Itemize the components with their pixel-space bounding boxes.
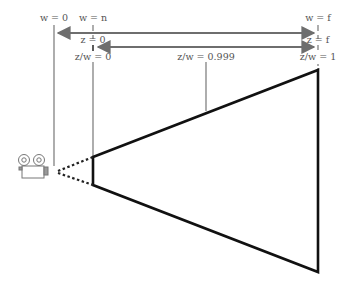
label-w-n: w = n <box>79 12 107 23</box>
label-zw-one: z/w = 1 <box>300 51 336 62</box>
camera-ray-top <box>58 157 93 171</box>
frustum-diagram: w = 0 w = n w = f z = 0 z = f z/w = 0 z/… <box>0 0 350 286</box>
movie-camera-icon <box>19 155 49 179</box>
label-z-f: z = f <box>307 34 331 45</box>
camera-ray-bottom <box>58 173 93 185</box>
label-w-zero: w = 0 <box>40 12 68 23</box>
label-zw-zero: z/w = 0 <box>75 51 111 62</box>
label-w-f: w = f <box>305 12 332 23</box>
label-z-zero: z = 0 <box>80 34 105 45</box>
label-zw-0999: z/w = 0.999 <box>177 51 235 62</box>
